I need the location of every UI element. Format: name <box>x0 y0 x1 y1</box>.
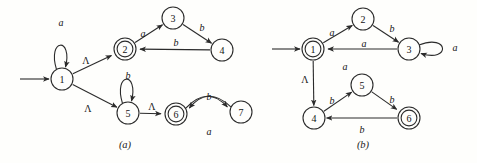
state-label: 3 <box>171 13 176 24</box>
transition-label: b <box>390 94 395 105</box>
transition-label: b <box>126 70 131 81</box>
transition-a-2-3[interactable]: a <box>135 25 162 43</box>
state-node-a-6[interactable]: 6 <box>165 103 187 125</box>
transition-label: Λ <box>148 101 156 112</box>
state-node-b-6[interactable]: 6 <box>398 107 420 129</box>
state-label: 4 <box>312 113 317 124</box>
state-node-b-2[interactable]: 2 <box>352 8 374 30</box>
transition-a-7-6[interactable]: a <box>189 96 231 136</box>
state-label: 7 <box>239 107 244 118</box>
state-label: 1 <box>60 74 65 85</box>
transition-b-1-4[interactable]: Λ <box>301 61 313 106</box>
transition-a-3-4[interactable]: b <box>183 22 211 44</box>
transition-label: Λ <box>84 103 92 114</box>
state-node-b-3[interactable]: 3 <box>398 38 420 60</box>
transition-label: b <box>330 95 335 106</box>
transition-label: a <box>141 28 146 39</box>
transition-a-4-2[interactable]: b <box>140 37 210 50</box>
state-node-a-2[interactable]: 2 <box>114 38 136 60</box>
state-label: 6 <box>407 113 412 124</box>
transition-b-3-1[interactable]: a <box>328 38 397 50</box>
diagram-b: abaaΛbbb123456a <box>272 8 458 135</box>
state-label: 3 <box>407 44 412 55</box>
state-node-a-7[interactable]: 7 <box>230 101 252 123</box>
transition-label: a <box>453 42 458 53</box>
state-diagram-svg: aΛΛabbbΛba1234567abaaΛbbb123456a <box>0 0 477 163</box>
transition-label: a <box>59 17 64 28</box>
state-node-a-1[interactable]: 1 <box>51 68 73 90</box>
transition-label: Λ <box>82 55 90 66</box>
state-node-b-1[interactable]: 1 <box>302 38 324 60</box>
transition-a-1-5[interactable]: Λ <box>73 84 117 113</box>
transition-a-1-1[interactable]: a <box>54 17 66 70</box>
transition-label: Λ <box>301 74 309 85</box>
edge-path <box>135 25 162 43</box>
diagram-a: aΛΛabbbΛba1234567 <box>20 7 252 137</box>
transition-label: a <box>362 38 367 49</box>
caption-a: (a) <box>119 139 131 150</box>
state-node-a-4[interactable]: 4 <box>211 39 233 61</box>
transition-label: b <box>360 124 365 135</box>
state-label: 5 <box>360 80 365 91</box>
state-label: 5 <box>126 108 131 119</box>
state-label: 6 <box>174 109 179 120</box>
transition-b-5-6[interactable]: b <box>372 92 397 109</box>
edge-path <box>73 55 112 73</box>
transition-b-4-5[interactable]: b <box>324 92 352 111</box>
transition-label: b <box>390 23 395 34</box>
state-label: 2 <box>123 44 128 55</box>
state-node-a-3[interactable]: 3 <box>162 7 184 29</box>
transition-label: a <box>207 126 212 137</box>
edge-path <box>120 79 132 103</box>
transition-a-5-5[interactable]: b <box>120 70 132 104</box>
state-label: 2 <box>361 14 366 25</box>
figure-canvas: aΛΛabbbΛba1234567abaaΛbbb123456a (a) (b) <box>0 0 477 163</box>
transition-b-1-2[interactable]: a <box>323 25 352 42</box>
state-node-b-4[interactable]: 4 <box>303 107 325 129</box>
state-node-b-5[interactable]: 5 <box>351 74 373 96</box>
edge-path <box>419 42 443 55</box>
transition-b-3-3[interactable]: a <box>419 42 458 56</box>
caption-b: (b) <box>357 139 369 150</box>
transition-b-6-4[interactable]: b <box>327 118 398 135</box>
extra-label: a <box>343 61 348 72</box>
edge-path <box>373 26 398 43</box>
transition-a-1-2[interactable]: Λ <box>73 55 112 74</box>
edge-path <box>313 61 314 106</box>
edge-path <box>140 49 210 50</box>
state-node-a-5[interactable]: 5 <box>117 102 139 124</box>
edge-path <box>73 84 117 107</box>
state-label: 4 <box>220 45 225 56</box>
edge-path <box>183 25 211 44</box>
transition-a-5-6[interactable]: Λ <box>140 101 161 114</box>
edge-path <box>323 25 352 42</box>
transition-label: b <box>200 22 205 33</box>
edge-path <box>54 45 66 69</box>
transition-b-2-3[interactable]: b <box>373 23 398 43</box>
edge-path <box>324 92 352 111</box>
transition-label: a <box>330 27 335 38</box>
state-label: 1 <box>311 44 316 55</box>
transition-label: b <box>174 37 179 48</box>
